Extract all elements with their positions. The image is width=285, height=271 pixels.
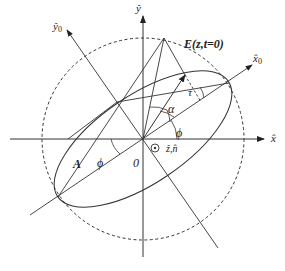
x-axis-label: x̂ [270, 132, 276, 144]
amplitude-label: A [72, 157, 81, 171]
y-axis-label: ŷ [135, 2, 141, 14]
polarization-ellipse-diagram: ŷ x̂ ŷ0 x̂0 E(z,t=0) A ϕ 0 ϕ α τ ẑ,n̂ [0, 0, 285, 271]
alpha-arc-2 [150, 107, 170, 122]
field-label: E(z,t=0) [183, 37, 224, 51]
normal-label: ẑ,n̂ [165, 143, 177, 154]
y0-axis-label: ŷ0 [52, 20, 62, 34]
origin-label: 0 [133, 156, 139, 170]
tau-arc [200, 87, 204, 98]
phi-left-label: ϕ [97, 156, 103, 170]
phi-right-label: ϕ [176, 126, 182, 140]
amplitude-line [58, 38, 164, 197]
x0-axis [30, 65, 252, 215]
alpha-label: α [168, 102, 175, 116]
x0-axis-label: x̂0 [252, 52, 262, 66]
phi-arc-left [111, 139, 120, 154]
chord-line-left [68, 102, 117, 139]
normal-out-of-page-icon [151, 144, 159, 152]
